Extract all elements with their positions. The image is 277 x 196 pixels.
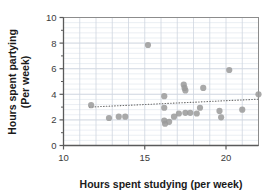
data-point bbox=[106, 115, 112, 121]
data-point bbox=[88, 102, 94, 108]
data-point bbox=[182, 87, 188, 93]
trend-line bbox=[90, 99, 259, 107]
data-point bbox=[194, 110, 200, 116]
data-point bbox=[161, 93, 167, 99]
data-point bbox=[176, 110, 182, 116]
data-point bbox=[166, 119, 172, 125]
x-tick-label: 10 bbox=[58, 152, 69, 163]
y-tick-label: 2 bbox=[51, 114, 56, 125]
x-tick-label: 20 bbox=[221, 152, 232, 163]
y-tick-label: 8 bbox=[51, 38, 56, 49]
data-point bbox=[200, 85, 206, 91]
x-axis: 101520 bbox=[58, 146, 258, 163]
y-tick-label: 6 bbox=[51, 63, 56, 74]
chart-canvas: 0246810 101520 Hours spent partying (Per… bbox=[0, 0, 277, 196]
y-tick-label: 0 bbox=[51, 140, 56, 151]
data-point bbox=[145, 42, 151, 48]
x-axis-tick-labels: 101520 bbox=[58, 152, 231, 163]
data-point bbox=[187, 110, 193, 116]
y-axis-title: Hours spent partying (Per week) bbox=[6, 29, 31, 135]
data-point bbox=[161, 105, 167, 111]
y-tick-label: 4 bbox=[51, 89, 56, 100]
data-point bbox=[255, 91, 261, 97]
data-point bbox=[116, 114, 122, 120]
data-point bbox=[226, 67, 232, 73]
data-point bbox=[218, 114, 224, 120]
scatter-plot-figure: 0246810 101520 Hours spent partying (Per… bbox=[0, 0, 277, 196]
data-point bbox=[239, 107, 245, 113]
y-axis-tick-labels: 0246810 bbox=[46, 12, 57, 151]
data-point bbox=[197, 105, 203, 111]
y-axis: 0246810 bbox=[46, 12, 64, 151]
data-point bbox=[122, 114, 128, 120]
y-axis-title-line1: Hours spent partying bbox=[6, 29, 18, 135]
x-tick-label: 15 bbox=[139, 152, 150, 163]
y-tick-label: 10 bbox=[46, 12, 57, 23]
x-axis-title: Hours spent studying (per week) bbox=[80, 178, 243, 190]
data-point bbox=[216, 108, 222, 114]
y-axis-title-line2: (Per week) bbox=[19, 56, 31, 109]
plot-grid-major-vertical bbox=[64, 18, 259, 146]
